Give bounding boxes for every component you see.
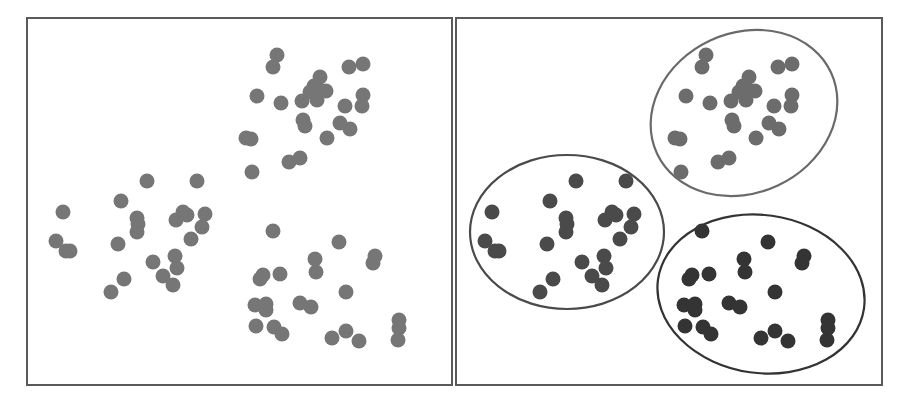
panel-clustered — [455, 17, 883, 386]
panel-unclustered — [26, 17, 453, 386]
